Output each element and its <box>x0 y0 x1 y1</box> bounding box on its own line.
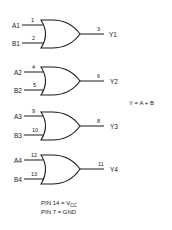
input-label: A3 <box>14 113 22 120</box>
vcc-subscript: CC <box>70 203 77 208</box>
gnd-note: PIN 7 = GND <box>41 209 77 215</box>
input-label: A4 <box>14 157 22 164</box>
pin-number: 5 <box>33 82 36 88</box>
or-gate-symbol <box>41 155 80 184</box>
or-gate-symbol <box>41 112 80 140</box>
pin-number: 4 <box>32 64 35 70</box>
output-label: Y2 <box>110 78 118 85</box>
or-gate-4: A4 B4 12 13 11 Y4 <box>14 152 118 184</box>
output-label: Y3 <box>110 123 118 130</box>
or-gate-symbol <box>41 20 80 48</box>
boolean-equation: Y = A + B <box>129 100 154 106</box>
vcc-note: PIN 14 = VCC <box>41 200 77 208</box>
pin-number: 11 <box>98 161 104 167</box>
pin-number: 3 <box>97 26 100 32</box>
output-label: Y1 <box>109 31 117 38</box>
pin-number: 8 <box>97 118 100 124</box>
or-gate-symbol <box>41 67 80 95</box>
pin-number: 9 <box>32 108 35 114</box>
output-label: Y4 <box>110 166 118 173</box>
input-label: B3 <box>14 132 22 139</box>
pin-number: 6 <box>97 73 100 79</box>
input-label: B4 <box>14 176 22 183</box>
or-gate-1: A1 B1 1 2 3 Y1 <box>12 17 117 48</box>
input-label: A2 <box>14 69 22 76</box>
input-label: B1 <box>12 40 20 47</box>
pin-number: 2 <box>32 35 35 41</box>
pin-number: 13 <box>31 171 37 177</box>
vcc-note-prefix: PIN 14 = V <box>41 200 70 206</box>
input-label: B2 <box>14 87 22 94</box>
pin-number: 12 <box>31 152 37 158</box>
pin-number: 1 <box>31 17 34 23</box>
or-gate-2: A2 B2 4 5 6 Y2 <box>14 64 118 95</box>
input-label: A1 <box>12 22 20 29</box>
or-gate-diagram: A1 B1 1 2 3 Y1 A2 B2 4 5 6 Y2 A3 B3 9 10… <box>0 0 172 230</box>
pin-number: 10 <box>32 127 38 133</box>
or-gate-3: A3 B3 9 10 8 Y3 <box>14 108 118 140</box>
